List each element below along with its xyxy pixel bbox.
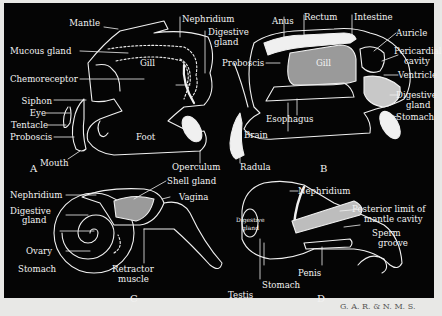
label-a-foot: Foot — [136, 133, 155, 142]
label-c-nephridium: Nephridium — [10, 191, 62, 200]
diagram-panel: Mantle Mucous gland Chemoreceptor Siphon… — [4, 3, 434, 298]
label-d-stomach: Stomach — [262, 281, 300, 290]
label-b-digestive: Digestive — [396, 91, 437, 100]
label-b-stomach: Stomach — [396, 113, 434, 122]
label-b-proboscis: Proboscis — [222, 59, 264, 68]
label-d-sperm: Sperm — [372, 229, 401, 238]
label-a-nephridium: Nephridium — [182, 15, 234, 24]
label-b-auricle: Auricle — [396, 29, 427, 38]
label-a-mantle: Mantle — [42, 19, 100, 28]
label-b-intestine: Intestine — [354, 13, 393, 22]
label-a-mouth: Mouth — [40, 159, 69, 168]
label-b-pericardial: Pericardial — [394, 47, 442, 56]
label-d-testis: Testis — [228, 291, 253, 300]
label-a-operculum: Operculum — [172, 163, 221, 172]
label-b-brain: Brain — [244, 131, 268, 140]
label-b-rectum: Rectum — [304, 13, 338, 22]
label-b-anus: Anus — [272, 17, 294, 26]
label-c-vagina: Vagina — [179, 193, 208, 202]
label-a-proboscis: Proboscis — [10, 133, 52, 142]
label-b-cavity: cavity — [404, 57, 430, 66]
label-a-siphon: Siphon — [10, 97, 52, 106]
label-c-retractor: Retractor — [112, 265, 154, 274]
label-d-mantle-cavity: mantle cavity — [364, 215, 423, 224]
label-c-shell-gland: Shell gland — [167, 177, 216, 186]
label-d-groove: groove — [378, 239, 408, 248]
label-c-stomach: Stomach — [18, 265, 56, 274]
panel-label-c: C — [130, 293, 138, 304]
label-d-nephridium: Nephridium — [298, 187, 350, 196]
figure-credit: G. A. R. & N. M. S. — [340, 302, 415, 311]
label-a-gland: gland — [214, 38, 238, 47]
panel-label-d: D — [317, 293, 325, 304]
label-c-ovary: Ovary — [26, 247, 52, 256]
label-d-gland: gland — [242, 223, 259, 232]
label-b-radula: Radula — [240, 163, 271, 172]
label-d-posterior: Posterior limit of — [352, 205, 425, 214]
label-b-gill: Gill — [316, 59, 331, 68]
label-d-penis: Penis — [298, 269, 321, 278]
label-a-tentacle: Tentacle — [10, 121, 48, 130]
panel-label-b: B — [320, 163, 327, 174]
label-b-esophagus: Esophagus — [266, 115, 313, 124]
label-a-gill: Gill — [140, 59, 155, 68]
label-a-mucous-gland: Mucous gland — [10, 47, 71, 56]
label-a-chemoreceptor: Chemoreceptor — [10, 75, 78, 84]
label-c-muscle: muscle — [118, 275, 149, 284]
label-b-gland: gland — [406, 101, 430, 110]
label-c-gland: gland — [22, 216, 46, 225]
panel-label-a: A — [30, 163, 37, 174]
label-a-digestive: Digestive — [208, 28, 249, 37]
label-b-ventricle: Ventricle — [398, 71, 437, 80]
label-a-eye: Eye — [10, 109, 46, 118]
